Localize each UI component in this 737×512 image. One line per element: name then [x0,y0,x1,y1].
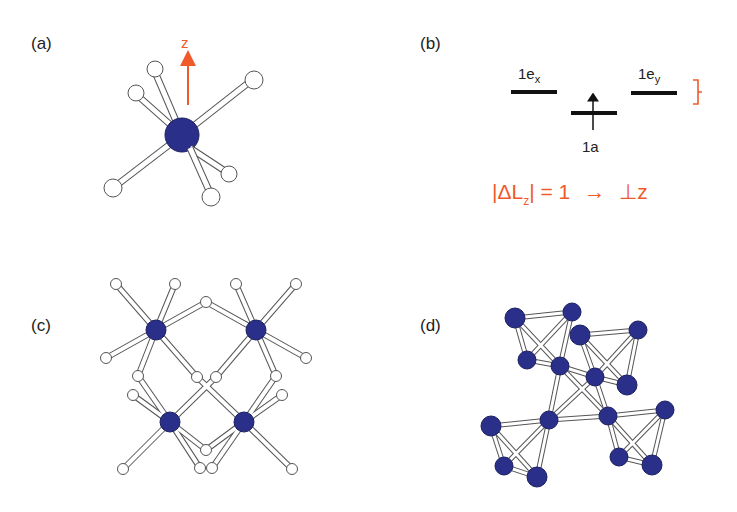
level-1a-label: 1a [582,138,599,155]
energy-level-diagram: 1ex 1a 1ey |ΔLz| = 1→⊥z [492,65,702,208]
level-1ey [631,91,677,95]
molecule-a: z [104,34,263,206]
metal-atoms [146,320,266,432]
figure-canvas: z 1ex 1a 1ey |ΔLz| = 1→⊥z [0,0,737,512]
selection-rule: |ΔLz| = 1→⊥z [492,180,648,208]
ligand-atom [202,188,220,206]
brace-icon [693,80,702,104]
ligand-atom [128,85,144,101]
ligand-atom [221,166,237,182]
ligand-atom [245,71,263,89]
ligand-atoms [101,279,312,475]
ligand-atom [147,61,163,77]
level-1a [571,111,617,115]
level-1ex [511,90,557,94]
level-1ex-label: 1ex [518,65,541,85]
molecule-d [481,303,674,487]
ligand-atom [104,179,122,197]
z-axis-label: z [181,34,189,51]
level-1ey-label: 1ey [638,65,661,85]
molecule-c [101,279,312,475]
